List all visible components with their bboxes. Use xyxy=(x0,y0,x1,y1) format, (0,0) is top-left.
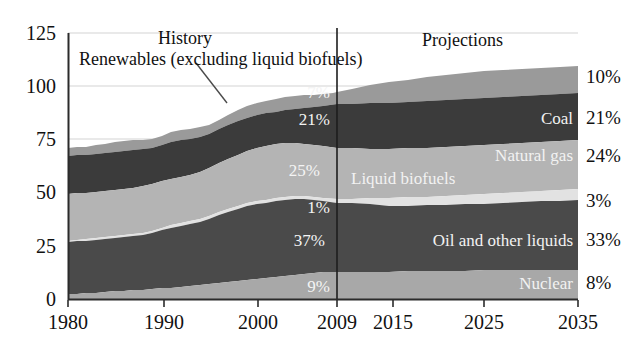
energy-consumption-area-chart: 125 100 75 50 25 0 1980 1990 2000 2009 2… xyxy=(0,0,642,352)
pct-2009-natural-gas: 25% xyxy=(276,161,320,181)
series-label-nuclear: Nuclear xyxy=(483,274,573,294)
y-tick-100: 100 xyxy=(4,75,56,98)
x-tick-2009: 2009 xyxy=(309,311,365,334)
x-tick-2035: 2035 xyxy=(550,311,606,334)
pct-2035-renewables: 10% xyxy=(586,66,621,88)
x-tick-marks xyxy=(68,300,578,307)
x-tick-2025: 2025 xyxy=(456,311,512,334)
y-tick-0: 0 xyxy=(4,288,56,311)
series-label-oil: Oil and other liquids xyxy=(393,231,573,251)
pct-2035-liquid-biofuels: 3% xyxy=(586,190,611,212)
pct-2009-coal: 21% xyxy=(286,110,330,130)
pct-2035-natural-gas: 24% xyxy=(586,145,621,167)
x-tick-1990: 1990 xyxy=(136,311,192,334)
pct-2009-nuclear: 9% xyxy=(286,277,330,297)
x-tick-2000: 2000 xyxy=(230,311,286,334)
series-label-natural-gas: Natural gas xyxy=(453,146,573,166)
pct-2035-oil: 33% xyxy=(586,229,621,251)
history-label: History xyxy=(130,28,240,49)
y-tick-50: 50 xyxy=(4,181,56,204)
series-label-liquid-biofuels: Liquid biofuels xyxy=(351,169,486,189)
projections-label: Projections xyxy=(400,30,525,51)
x-tick-2015: 2015 xyxy=(365,311,421,334)
pct-2009-renewables: 7% xyxy=(286,83,330,103)
y-tick-125: 125 xyxy=(4,22,56,45)
pct-2035-nuclear: 8% xyxy=(586,272,611,294)
x-tick-1980: 1980 xyxy=(40,311,96,334)
y-tick-75: 75 xyxy=(4,128,56,151)
pct-2035-coal: 21% xyxy=(586,107,621,129)
renewables-annotation-label: Renewables (excluding liquid biofuels) xyxy=(79,49,362,70)
pct-2009-liquid-biofuels: 1% xyxy=(286,198,330,218)
pct-2009-oil: 37% xyxy=(281,231,325,251)
y-tick-25: 25 xyxy=(4,235,56,258)
series-label-coal: Coal xyxy=(473,109,573,129)
